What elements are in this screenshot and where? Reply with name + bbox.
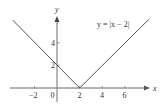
function-curve bbox=[13, 19, 149, 88]
x-tick-label: −2 bbox=[29, 91, 38, 100]
x-tick-label: 0 bbox=[51, 91, 55, 100]
y-axis-label: y bbox=[54, 5, 59, 14]
x-tick-label: 2 bbox=[78, 91, 82, 100]
x-tick-label: 6 bbox=[123, 91, 127, 100]
equation-label: y = |x − 2| bbox=[97, 20, 129, 29]
x-tick-label: 4 bbox=[100, 91, 104, 100]
y-axis-arrow-icon bbox=[55, 16, 60, 22]
x-axis-label: x bbox=[152, 84, 157, 93]
y-tick-label: 4 bbox=[51, 39, 55, 48]
x-axis-arrow-icon bbox=[144, 86, 150, 91]
abs-value-graph: x y −2 0 2 4 6 2 4 y = |x − 2| bbox=[0, 0, 164, 108]
